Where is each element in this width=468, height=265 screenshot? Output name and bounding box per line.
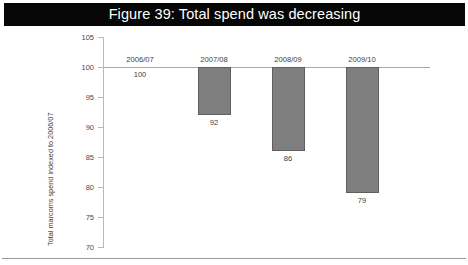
figure-bottom-rule xyxy=(2,258,466,259)
y-axis-tick xyxy=(98,37,104,38)
category-label: 2009/10 xyxy=(348,55,375,64)
bar[interactable] xyxy=(346,67,379,193)
category-label: 2007/08 xyxy=(200,55,227,64)
y-axis-tick xyxy=(98,217,104,218)
bar-value-label: 79 xyxy=(358,196,366,205)
category-label: 2008/09 xyxy=(274,55,301,64)
y-axis-title-wrapper: Total marcoms spend indexed to 2006/07 xyxy=(72,236,73,237)
y-axis-tick xyxy=(98,157,104,158)
y-axis-tick-label: 75 xyxy=(64,213,94,222)
y-axis-tick xyxy=(98,127,104,128)
y-axis-tick xyxy=(98,67,104,68)
y-axis-title: Total marcoms spend indexed to 2006/07 xyxy=(46,46,55,246)
y-axis-tick-label: 80 xyxy=(64,183,94,192)
y-axis-tick xyxy=(98,97,104,98)
y-axis-tick-label: 95 xyxy=(64,93,94,102)
bar-value-label: 100 xyxy=(134,70,147,79)
figure-title-bar: Figure 39: Total spend was decreasing xyxy=(4,3,465,26)
y-axis-tick xyxy=(98,187,104,188)
baseline-100-line xyxy=(103,67,430,68)
bar-value-label: 92 xyxy=(210,118,218,127)
y-axis-tick-label: 100 xyxy=(64,63,94,72)
figure-title: Figure 39: Total spend was decreasing xyxy=(4,3,465,26)
bar-chart: 707580859095100105 Total marcoms spend i… xyxy=(0,26,468,257)
category-label: 2006/07 xyxy=(126,55,153,64)
y-axis-tick xyxy=(98,247,104,248)
y-axis-tick-label: 85 xyxy=(64,153,94,162)
y-axis-tick-label: 90 xyxy=(64,123,94,132)
bar[interactable] xyxy=(198,67,231,115)
y-axis-tick-label: 70 xyxy=(64,243,94,252)
y-axis-tick-label: 105 xyxy=(64,33,94,42)
bar[interactable] xyxy=(272,67,305,151)
bar-value-label: 86 xyxy=(284,154,292,163)
